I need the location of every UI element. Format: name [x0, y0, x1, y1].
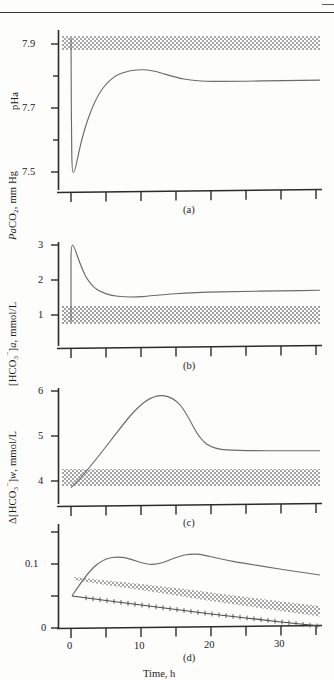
- panel-d-lower-curve-markers: [86, 596, 317, 629]
- panel-b-ylabel-co: CO: [7, 213, 18, 228]
- panel-d-ytick-label-2: 0.1: [25, 558, 38, 569]
- panel-b-y-ticks: [51, 245, 59, 315]
- panel-d-ylabel-w: w: [7, 472, 18, 479]
- panel-a-curve: [71, 38, 320, 173]
- panel-b-normal-band: [62, 306, 320, 324]
- panel-c: [HCO3−]a, mmol/L: [0, 378, 334, 528]
- panel-d-xtick-label-6: 30: [274, 638, 285, 649]
- panel-b-plot: [0, 228, 334, 388]
- panel-d-y-axis-label: Δ[HCO3−]w, mmol/L: [5, 431, 20, 524]
- panel-d-xtick-label-0: 0: [67, 640, 72, 651]
- panel-c-ytick-label-0: 4: [38, 475, 43, 486]
- panel-c-y-axis-label: [HCO3−]a, mmol/L: [5, 302, 20, 386]
- panel-b-x-axis: [57, 346, 322, 349]
- figure-container: pHa: [0, 0, 334, 680]
- x-axis-title: Time, h: [143, 668, 175, 679]
- page-rule-corner: [322, 4, 334, 5]
- panel-c-ylabel-3: 3: [12, 356, 20, 360]
- panel-a: pHa: [0, 22, 334, 222]
- panel-c-svg: [0, 378, 334, 528]
- panel-d-tag: (d): [183, 652, 195, 663]
- panel-d-ylabel-3: 3: [12, 487, 20, 491]
- panel-c-ytick-label-2: 6: [38, 385, 43, 396]
- panel-a-svg: [0, 22, 334, 222]
- panel-a-y-ticks: [51, 44, 59, 172]
- panel-d: Δ[HCO3−]w, mmol/L: [0, 518, 334, 680]
- panel-c-ylabel-units: , mmol/L: [7, 302, 18, 343]
- panel-b: PaCO2, mm Hg: [0, 228, 334, 388]
- panel-d-upper-curve: [72, 554, 320, 596]
- page-rule-top: [0, 12, 334, 13]
- panel-c-ylabel-a: a: [7, 342, 18, 347]
- panel-d-xtick-label-2: 10: [134, 640, 145, 651]
- panel-c-ylabel-minus: −: [4, 352, 12, 356]
- panel-a-ytick-label-2: 7.7: [22, 102, 35, 113]
- panel-c-y-ticks: [51, 391, 59, 481]
- panel-a-ytick-label-4: 7.9: [22, 38, 35, 49]
- panel-a-tag: (a): [183, 204, 195, 215]
- panel-b-ylabel-2: 2: [12, 209, 20, 213]
- panel-d-x-axis: [57, 626, 322, 629]
- panel-b-ytick-label-2: 3: [38, 239, 43, 250]
- panel-c-plot: [0, 378, 334, 528]
- panel-c-ytick-label-1: 5: [38, 430, 43, 441]
- panel-b-ylabel-units: , mm Hg: [7, 171, 18, 209]
- panel-b-tag: (b): [183, 360, 195, 371]
- panel-d-ylabel-close: ]: [7, 479, 18, 483]
- panel-c-normal-band: [62, 469, 320, 486]
- panel-a-ytick-label-0: 7.5: [22, 166, 35, 177]
- panel-d-svg: [0, 518, 334, 680]
- panel-d-ytick-label-0: 0: [41, 622, 46, 633]
- panel-d-xtick-label-4: 20: [204, 639, 215, 650]
- panel-a-x-axis: [57, 190, 322, 193]
- panel-c-ylabel-close: ]: [7, 348, 18, 352]
- panel-c-x-axis: [57, 504, 322, 507]
- panel-b-svg: [0, 228, 334, 388]
- panel-d-plot: [0, 518, 334, 680]
- panel-b-ytick-label-1: 2: [38, 274, 43, 285]
- panel-a-plot: [0, 22, 334, 222]
- panel-d-y-ticks: [51, 532, 59, 628]
- panel-d-uncertainty-band: [74, 577, 320, 617]
- panel-a-normal-band: [62, 36, 320, 50]
- panel-d-ylabel-minus: −: [4, 483, 12, 487]
- panel-d-ylabel-units: , mmol/L: [7, 431, 18, 472]
- panel-b-ytick-label-0: 1: [38, 309, 43, 320]
